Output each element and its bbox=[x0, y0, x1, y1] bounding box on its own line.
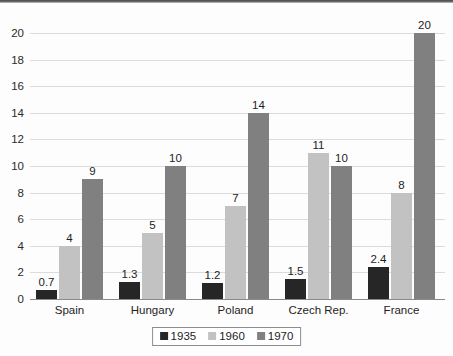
bar-value-label: 1.2 bbox=[205, 269, 221, 281]
legend-label: 1960 bbox=[219, 330, 245, 342]
bar-1935-poland: 1.2 bbox=[202, 283, 223, 299]
bar-value-label: 10 bbox=[335, 152, 348, 164]
bar-value-label: 11 bbox=[313, 139, 325, 151]
bar-value-label: 9 bbox=[89, 165, 95, 177]
legend-swatch-icon bbox=[208, 332, 216, 340]
bar-value-label: 10 bbox=[169, 152, 182, 164]
bar-1960-poland: 7 bbox=[225, 206, 246, 299]
bar-value-label: 1.5 bbox=[288, 265, 304, 277]
y-axis-tick-label: 0 bbox=[18, 293, 24, 305]
bar-value-label: 4 bbox=[66, 232, 72, 244]
legend-label: 1970 bbox=[268, 330, 294, 342]
gridline bbox=[30, 33, 445, 34]
y-axis-tick-label: 6 bbox=[18, 213, 24, 225]
bar-value-label: 1.3 bbox=[122, 268, 138, 280]
y-axis-tick-label: 2 bbox=[18, 266, 24, 278]
plot-area: 02468101214161820 0.7491.35101.27141.511… bbox=[30, 33, 445, 299]
bar-1970-czech-rep: 10 bbox=[331, 166, 352, 299]
bar-1970-spain: 9 bbox=[82, 179, 103, 299]
legend-item-1970[interactable]: 1970 bbox=[257, 330, 294, 342]
bar-value-label: 7 bbox=[232, 192, 238, 204]
y-axis-tick-label: 20 bbox=[11, 27, 24, 39]
legend-swatch-icon bbox=[257, 332, 265, 340]
category-label-france: France bbox=[384, 304, 420, 316]
x-axis-line bbox=[30, 299, 445, 300]
legend-item-1935[interactable]: 1935 bbox=[160, 330, 197, 342]
bar-value-label: 2.4 bbox=[371, 253, 387, 265]
category-label-poland: Poland bbox=[218, 304, 254, 316]
y-axis-tick-label: 4 bbox=[18, 240, 24, 252]
y-axis-tick-label: 16 bbox=[11, 80, 24, 92]
bar-1960-spain: 4 bbox=[59, 246, 80, 299]
category-label-czech-rep: Czech Rep. bbox=[288, 304, 348, 316]
gridline bbox=[30, 113, 445, 114]
legend-item-1960[interactable]: 1960 bbox=[208, 330, 245, 342]
bar-1960-czech-rep: 11 bbox=[308, 153, 329, 299]
bar-value-label: 0.7 bbox=[39, 276, 55, 288]
legend-label: 1935 bbox=[171, 330, 197, 342]
bar-1935-hungary: 1.3 bbox=[119, 282, 140, 299]
page-scan-edge bbox=[0, 0, 453, 3]
bar-1960-hungary: 5 bbox=[142, 233, 163, 300]
chart-legend: 193519601970 bbox=[152, 327, 302, 346]
bar-1935-france: 2.4 bbox=[368, 267, 389, 299]
gridline bbox=[30, 139, 445, 140]
bar-value-label: 14 bbox=[252, 99, 265, 111]
bar-1960-france: 8 bbox=[391, 193, 412, 299]
gridline bbox=[30, 60, 445, 61]
category-label-hungary: Hungary bbox=[131, 304, 174, 316]
bar-1970-poland: 14 bbox=[248, 113, 269, 299]
bar-value-label: 20 bbox=[418, 19, 431, 31]
y-axis-tick-label: 8 bbox=[18, 187, 24, 199]
y-axis-tick-label: 12 bbox=[11, 133, 24, 145]
bar-1970-france: 20 bbox=[414, 33, 435, 299]
bar-1935-czech-rep: 1.5 bbox=[285, 279, 306, 299]
legend-swatch-icon bbox=[160, 332, 168, 340]
category-label-spain: Spain bbox=[55, 304, 84, 316]
bar-value-label: 5 bbox=[149, 219, 155, 231]
y-axis-tick-label: 14 bbox=[11, 107, 24, 119]
bar-chart-figure: 02468101214161820 0.7491.35101.27141.511… bbox=[0, 0, 453, 356]
y-axis-tick-label: 18 bbox=[11, 54, 24, 66]
bar-1935-spain: 0.7 bbox=[36, 290, 57, 299]
gridline bbox=[30, 86, 445, 87]
bar-value-label: 8 bbox=[398, 179, 404, 191]
y-axis-tick-label: 10 bbox=[11, 160, 24, 172]
bar-1970-hungary: 10 bbox=[165, 166, 186, 299]
